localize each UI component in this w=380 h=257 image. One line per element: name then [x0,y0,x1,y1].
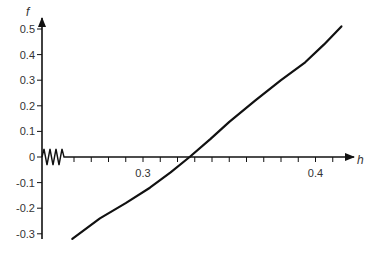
y-tick-label: 0.5 [20,23,35,35]
axis-break-zigzag [42,149,67,165]
y-tick-label: 0.1 [20,125,35,137]
y-tick-label: 0.3 [20,74,35,86]
y-tick-label: -0.2 [16,202,35,214]
data-series [72,26,341,239]
chart: 0.50.40.30.20.10-0.1-0.2-0.3 0.30.4 f h [0,0,380,257]
x-axis-label: h [357,153,364,167]
x-tick-label: 0.4 [308,167,323,179]
x-axis: 0.30.4 [67,157,354,179]
x-tick-label: 0.3 [135,167,150,179]
y-tick-label: -0.1 [16,177,35,189]
series-line [72,26,341,239]
y-axis: 0.50.40.30.20.10-0.1-0.2-0.3 [16,18,42,240]
y-tick-label: -0.3 [16,228,35,240]
y-tick-label: 0.2 [20,100,35,112]
y-axis-label: f [26,5,31,19]
y-tick-label: 0 [29,151,35,163]
y-tick-label: 0.4 [20,49,35,61]
